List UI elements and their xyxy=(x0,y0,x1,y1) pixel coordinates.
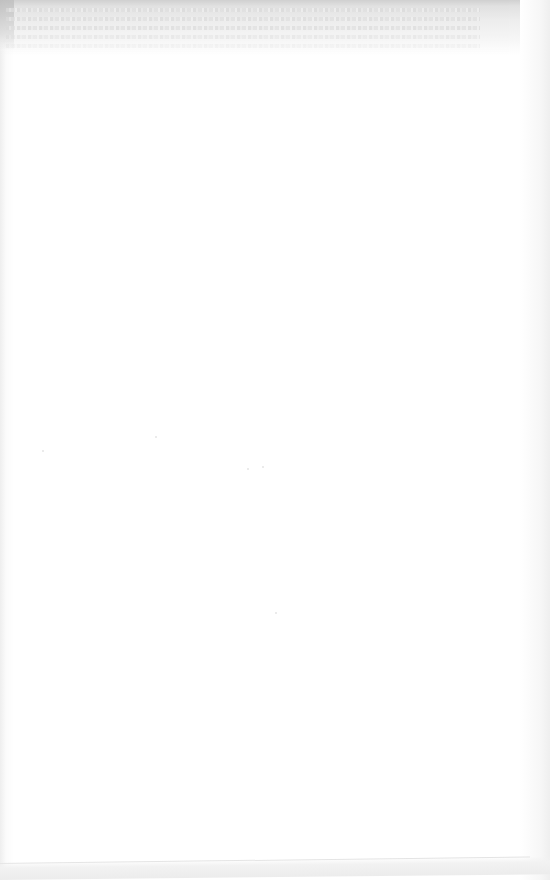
page-bottom-edge xyxy=(0,856,550,880)
scanned-page xyxy=(0,0,550,880)
paper-speck xyxy=(155,436,157,438)
paper-speck xyxy=(262,466,264,468)
paper-speck xyxy=(247,468,249,470)
paper-speck xyxy=(275,612,277,614)
bleed-through-region xyxy=(0,0,520,55)
bleed-through-line xyxy=(6,8,480,12)
paper-speck xyxy=(42,450,44,452)
bleed-through-line xyxy=(6,44,480,48)
bleed-through-line xyxy=(6,17,480,21)
bleed-through-line xyxy=(6,26,480,30)
bleed-through-line xyxy=(6,35,480,39)
